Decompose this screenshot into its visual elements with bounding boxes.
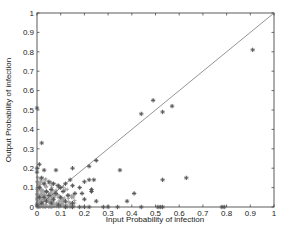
x-tick-label: 0.9: [245, 209, 257, 218]
y-tick-label: 0: [30, 203, 35, 212]
x-axis-label: Input Probability of infection: [106, 215, 204, 224]
y-tick-label: 0.2: [23, 164, 35, 173]
y-tick-label: 0.6: [23, 86, 35, 95]
scatter-chart: 00.10.20.30.40.50.60.70.80.91 00.10.20.3…: [0, 0, 291, 236]
y-tick-label: 0.1: [23, 183, 35, 192]
x-tick-label: 0.1: [55, 209, 67, 218]
y-tick-label: 0.4: [23, 125, 35, 134]
y-tick-label: 0.8: [23, 48, 35, 57]
x-tick-label: 0: [35, 209, 40, 218]
y-axis-label: Output Probability of infection: [4, 58, 13, 163]
x-tick-label: 0.2: [79, 209, 91, 218]
x-tick-label: 0.8: [221, 209, 233, 218]
y-tick-label: 0.5: [23, 106, 35, 115]
x-tick-label: 1: [272, 209, 277, 218]
y-tick-label: 0.9: [23, 28, 35, 37]
y-tick-label: 1: [30, 9, 35, 18]
y-tick-label: 0.7: [23, 67, 35, 76]
y-tick-label: 0.3: [23, 145, 35, 154]
